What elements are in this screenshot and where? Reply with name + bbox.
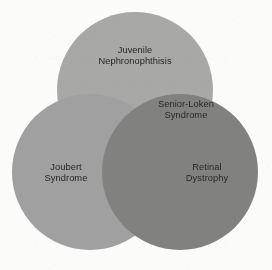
venn-circle-retinal-dystrophy: [102, 94, 258, 250]
venn-diagram-figure: Juvenile Nephronophthisis Joubert Syndro…: [0, 0, 272, 270]
venn-circle-group: [12, 12, 258, 250]
venn-circles-canvas: [0, 0, 272, 270]
